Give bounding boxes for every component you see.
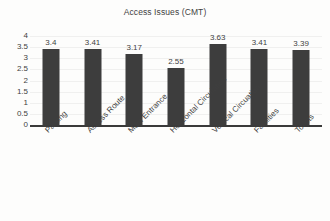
y-tick-label: 1.5 [2,88,28,96]
bar-value-label: 3.41 [252,39,268,47]
bar-value-label: 3.39 [293,40,309,48]
bar-value-label: 3.63 [210,34,226,42]
bar-value-label: 2.55 [168,58,184,66]
y-tick-label: 0 [2,121,28,129]
y-tick-label: 3 [2,54,28,62]
bar-group: 3.39 [280,36,322,125]
y-tick-label: 2 [2,77,28,85]
y-axis: 4 3.5 3 2.5 2 1.5 1 0.5 0 [0,0,28,221]
y-tick-label: 2.5 [2,65,28,73]
y-tick-label: 1 [2,99,28,107]
chart-title: Access Issues (CMT) [0,7,330,17]
bar-value-label: 3.17 [126,44,142,52]
y-tick-label: 0.5 [2,110,28,118]
bar-chart-figure: Access Issues (CMT) 4 3.5 3 2.5 2 1.5 1 … [0,0,330,221]
y-tick-label: 3.5 [2,43,28,51]
bar-value-label: 3.41 [85,39,101,47]
y-tick-label: 4 [2,32,28,40]
bar-value-label: 3.4 [45,39,56,47]
